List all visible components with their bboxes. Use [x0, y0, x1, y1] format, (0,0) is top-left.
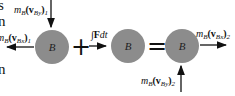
- label-impulse: ∫Fdt: [91, 29, 108, 40]
- label-momentum-y2: mB(vBy)2: [141, 75, 175, 90]
- ball-impulse: B: [111, 29, 145, 63]
- label-momentum-x2: mB(vBx)2: [196, 28, 230, 43]
- equals-sign: =: [147, 34, 167, 58]
- plus-sign: +: [71, 35, 91, 59]
- label-momentum-x1: mB(vBx)1: [0, 32, 31, 47]
- ball-initial: B: [35, 30, 69, 64]
- ball-final: B: [165, 29, 199, 63]
- label-momentum-y1: mB(vBy)1: [14, 4, 48, 19]
